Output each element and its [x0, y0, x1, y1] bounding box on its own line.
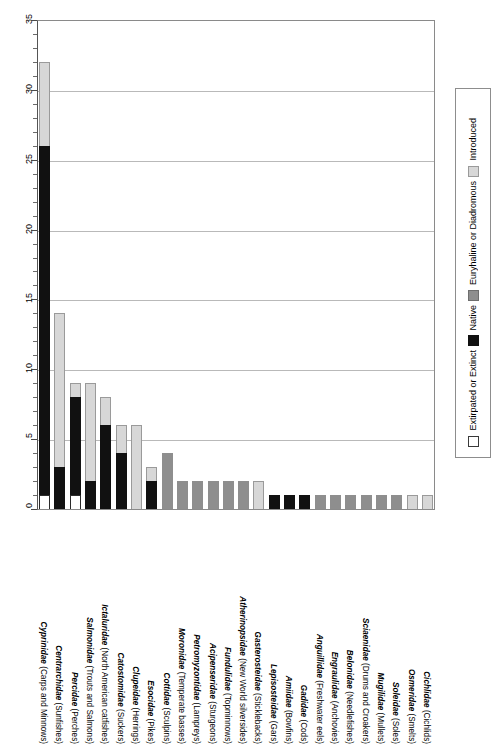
bar[interactable] — [223, 481, 234, 509]
legend-item[interactable]: Extirpated or Extinct — [468, 350, 479, 447]
bar[interactable] — [391, 495, 402, 509]
bar-segment-euryhaline — [376, 495, 387, 509]
chart-root: 05101520253035 Cyprinidae (Carps and Min… — [0, 0, 503, 755]
bar-segment-native — [39, 146, 50, 495]
x-axis-label: Salmonidae (Trouts and Salmons) — [84, 514, 95, 744]
legend-swatch-extirpated-icon — [468, 436, 479, 447]
x-label-family: Clupeidae — [131, 666, 140, 707]
plot-area: 05101520253035 Cyprinidae (Carps and Min… — [0, 0, 440, 755]
bar[interactable] — [253, 481, 264, 509]
bar[interactable] — [330, 495, 341, 509]
x-label-family: Amiidae — [284, 676, 293, 710]
bar[interactable] — [269, 495, 280, 509]
x-axis-label: Cichlidae (Cichlids) — [421, 514, 432, 744]
x-label-family: Petromyzontidae — [192, 634, 201, 702]
bar-segment-introduced — [54, 313, 65, 467]
bar-segment-native — [100, 425, 111, 509]
bar-segment-native — [146, 481, 157, 509]
x-label-common: (Temperate basses) — [177, 672, 186, 744]
x-label-family: Salmonidae — [85, 617, 94, 665]
bar[interactable] — [70, 383, 81, 509]
x-axis-label: Fundulidae (Topminnows) — [222, 514, 233, 744]
bar-segment-euryhaline — [162, 453, 173, 509]
bar[interactable] — [177, 481, 188, 509]
bar-segment-introduced — [70, 383, 81, 397]
x-label-family: Mugilidae — [376, 673, 385, 713]
x-label-common: (New World silversides) — [238, 658, 247, 744]
legend-label: Native — [468, 305, 478, 331]
x-axis-label: Belonidae (Needlefishes) — [344, 514, 355, 744]
x-label-common: (Mullets) — [376, 713, 385, 744]
bar[interactable] — [345, 495, 356, 509]
bar[interactable] — [315, 495, 326, 509]
x-label-family: Esocidae — [146, 680, 155, 718]
bar[interactable] — [39, 62, 50, 509]
x-label-common: (Drums and Croakers) — [361, 663, 370, 744]
x-label-common: (Soles) — [391, 718, 400, 744]
legend-item[interactable]: Introduced — [468, 118, 479, 177]
x-label-family: Percidae — [70, 672, 79, 708]
bar-segment-introduced — [407, 495, 418, 509]
x-label-family: Anguillidae — [315, 634, 324, 680]
x-label-common: (Perches) — [70, 709, 79, 745]
bar[interactable] — [407, 495, 418, 509]
bar-segment-euryhaline — [223, 481, 234, 509]
bar[interactable] — [422, 495, 433, 509]
bar-segment-introduced — [39, 62, 50, 146]
x-label-family: Atherinopsidae — [238, 596, 247, 658]
bar[interactable] — [100, 397, 111, 509]
bar[interactable] — [361, 495, 372, 509]
bar[interactable] — [192, 481, 203, 509]
x-label-common: (Freshwater eels) — [315, 680, 324, 744]
x-label-family: Cyprinidae — [39, 622, 48, 667]
legend-item[interactable]: Native — [468, 305, 479, 347]
x-label-common: (Herrings) — [131, 708, 140, 744]
x-axis-label: Soleidae (Soles) — [390, 514, 401, 744]
x-label-family: Cottidae — [162, 673, 171, 708]
bar[interactable] — [116, 425, 127, 509]
x-axis-label: Gadidae (Cods) — [298, 514, 309, 744]
x-axis-label: Clupeidae (Herrings) — [130, 514, 141, 744]
bar-segment-euryhaline — [208, 481, 219, 509]
x-label-common: (Cichlids) — [422, 710, 431, 744]
legend-label: Introduced — [468, 118, 478, 161]
x-label-common: (Sticklebacks) — [253, 693, 262, 744]
bar[interactable] — [146, 467, 157, 509]
x-axis-label: Cyprinidae (Carps and Minnows) — [38, 514, 49, 744]
x-axis-label: Engraulidae (Anchovies) — [329, 514, 340, 744]
x-axis-label: Lepisosteidae (Gars) — [268, 514, 279, 744]
bar[interactable] — [85, 383, 96, 509]
legend-label: Extirpated or Extinct — [468, 350, 478, 431]
x-axis-label: Esocidae (Pikes) — [145, 514, 156, 744]
x-axis-label: Catostomidae (Suckers) — [115, 514, 126, 744]
bar-segment-euryhaline — [315, 495, 326, 509]
bar-segment-native — [54, 467, 65, 509]
x-label-family: Lepisosteidae — [269, 664, 278, 721]
x-axis-label: Centrarchidae (Sunfishes) — [53, 514, 64, 744]
x-label-family: Belonidae — [345, 650, 354, 691]
x-axis-label: Moronidae (Temperate basses) — [176, 514, 187, 744]
x-label-common: (Anchovies) — [330, 701, 339, 744]
x-axis-label: Ictaluridae (North American catfishes) — [99, 514, 110, 744]
bar[interactable] — [131, 425, 142, 509]
x-label-common: (Trouts and Salmons) — [85, 666, 94, 744]
bar-segment-native — [70, 397, 81, 495]
bar-segment-native — [85, 481, 96, 509]
bar-segment-native — [269, 495, 280, 509]
bar[interactable] — [54, 313, 65, 509]
bar[interactable] — [376, 495, 387, 509]
bar-series-container — [37, 20, 435, 509]
x-label-family: Gadidae — [299, 685, 308, 720]
legend-label: Euryhaline or Diadromous — [468, 181, 478, 285]
x-axis-label: Petromyzontidae (Lampreys) — [191, 514, 202, 744]
bar-segment-introduced — [146, 467, 157, 481]
legend-item[interactable]: Euryhaline or Diadromous — [468, 181, 479, 301]
bar[interactable] — [238, 481, 249, 509]
bar[interactable] — [299, 495, 310, 509]
bar-segment-euryhaline — [345, 495, 356, 509]
legend-swatch-eury-icon — [468, 290, 479, 301]
bar[interactable] — [284, 495, 295, 509]
bar[interactable] — [208, 481, 219, 509]
bar[interactable] — [162, 453, 173, 509]
bar-segment-introduced — [116, 425, 127, 453]
